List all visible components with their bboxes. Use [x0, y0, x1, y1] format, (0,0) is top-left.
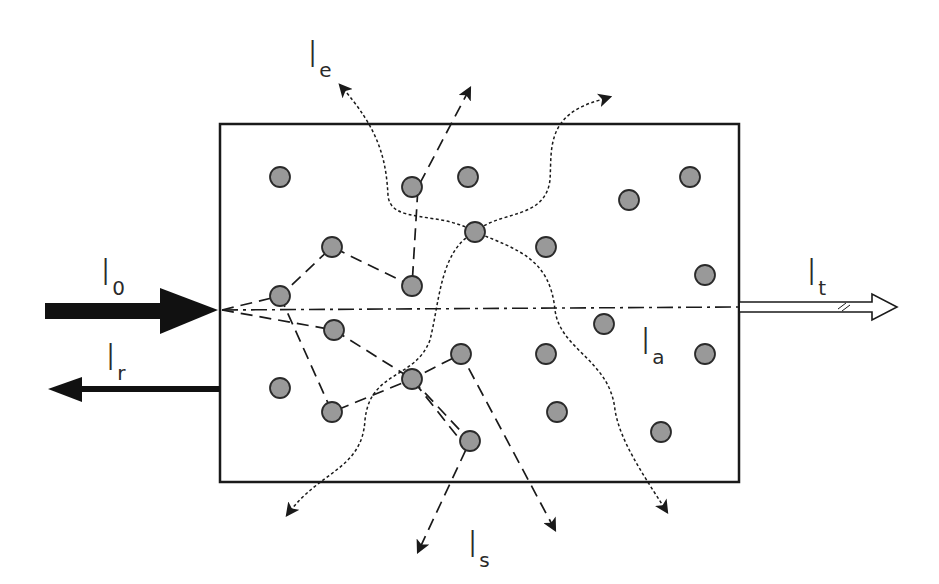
label-transmitted: It [806, 253, 825, 291]
label-emitted: Ie [307, 35, 331, 73]
incident-arrow [45, 288, 218, 334]
reflected-arrow [48, 377, 220, 402]
label-absorbed: Ia [640, 322, 663, 360]
direct-path [222, 307, 739, 310]
label-incident: I0 [100, 253, 124, 291]
light-scattering-diagram [0, 0, 939, 584]
label-scattered: Is [467, 525, 489, 563]
label-reflected: Ir [105, 338, 124, 376]
emission-paths [287, 85, 667, 515]
